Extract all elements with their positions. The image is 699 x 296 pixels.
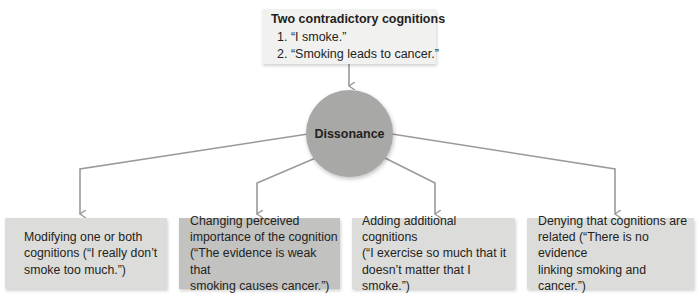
- outcome-text: smoke too much.”): [24, 262, 157, 278]
- outcome-text: (“I exercise so much that it: [362, 245, 515, 261]
- outcome-text: Modifying one or both: [24, 229, 157, 245]
- outcome-text: importance of the cognition: [190, 229, 340, 245]
- outcome-text: cognitions (“I really don’t: [24, 245, 157, 261]
- cognition-item: 1. “I smoke.”: [277, 30, 346, 44]
- outcome-modify-cognitions: Modifying one or both cognitions (“I rea…: [5, 218, 167, 289]
- outcome-text: doesn’t matter that I smoke.”): [362, 262, 515, 295]
- outcome-text: (“The evidence is weak that: [190, 245, 340, 278]
- outcome-change-importance: Changing perceived importance of the cog…: [179, 218, 340, 289]
- cognitions-title: Two contradictory cognitions: [271, 12, 445, 26]
- outcome-text: smoking causes cancer.”): [190, 278, 340, 294]
- outcome-deny-relation: Denying that cognitions are related (“Th…: [527, 218, 694, 289]
- outcome-text: related (“There is no evidence: [538, 229, 694, 262]
- outcome-text: Adding additional cognitions: [362, 213, 515, 246]
- dissonance-label: Dissonance: [314, 127, 384, 141]
- outcome-text: Changing perceived: [190, 213, 340, 229]
- contradictory-cognitions-box: Two contradictory cognitions 1. “I smoke…: [262, 9, 436, 64]
- cognition-item: 2. “Smoking leads to cancer.”: [277, 47, 439, 61]
- outcome-add-cognitions: Adding additional cognitions (“I exercis…: [352, 218, 515, 289]
- dissonance-node: Dissonance: [306, 90, 393, 177]
- outcome-text: Denying that cognitions are: [538, 213, 694, 229]
- outcome-text: linking smoking and cancer.”): [538, 262, 694, 295]
